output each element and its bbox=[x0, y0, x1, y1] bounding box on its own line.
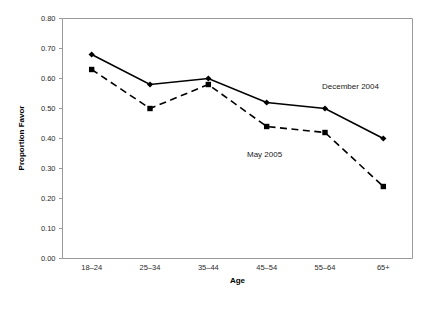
y-tick-label: 0.50 bbox=[41, 104, 56, 113]
data-point-marker bbox=[206, 82, 211, 87]
y-tick-label: 0.40 bbox=[41, 134, 56, 143]
x-axis-title: Age bbox=[230, 276, 246, 285]
y-tick-label: 0.00 bbox=[41, 254, 56, 263]
axis-lines bbox=[63, 19, 413, 259]
x-tick-label: 45–54 bbox=[256, 263, 277, 272]
x-tick-label: 65+ bbox=[377, 263, 390, 272]
x-tick-label: 18–24 bbox=[81, 263, 102, 272]
data-point-marker bbox=[264, 99, 270, 105]
series-label-1: May 2005 bbox=[247, 150, 283, 159]
data-point-marker bbox=[89, 67, 94, 72]
x-tick-label: 25–34 bbox=[140, 263, 161, 272]
y-tick-labels: 0.000.100.200.300.400.500.600.700.80 bbox=[41, 14, 56, 263]
y-tick-label: 0.60 bbox=[41, 74, 56, 83]
line-chart: 0.000.100.200.300.400.500.600.700.80 18–… bbox=[0, 0, 431, 309]
data-point-marker bbox=[205, 75, 211, 81]
data-point-marker bbox=[322, 130, 327, 135]
data-point-marker bbox=[147, 81, 153, 87]
data-point-marker bbox=[381, 184, 386, 189]
x-tick-label: 35–44 bbox=[198, 263, 219, 272]
y-tick-label: 0.20 bbox=[41, 194, 56, 203]
data-point-marker bbox=[89, 51, 95, 57]
y-tick-label: 0.10 bbox=[41, 224, 56, 233]
plot-axes bbox=[63, 19, 413, 259]
x-tick-label: 55–64 bbox=[315, 263, 336, 272]
series-markers bbox=[89, 51, 387, 189]
data-point-marker bbox=[322, 105, 328, 111]
data-point-marker bbox=[380, 135, 386, 141]
x-tick-labels: 18–2425–3435–4445–5455–6465+ bbox=[81, 263, 390, 272]
data-point-marker bbox=[264, 124, 269, 129]
y-tick-marks bbox=[59, 19, 63, 259]
y-tick-label: 0.70 bbox=[41, 44, 56, 53]
data-point-marker bbox=[147, 106, 152, 111]
y-axis-title: Proportion Favor bbox=[17, 106, 26, 171]
y-tick-label: 0.80 bbox=[41, 14, 56, 23]
y-tick-label: 0.30 bbox=[41, 164, 56, 173]
series-label-0: December 2004 bbox=[322, 82, 379, 91]
series-annotations: December 2004May 2005 bbox=[247, 82, 379, 159]
series-lines bbox=[92, 55, 384, 187]
chart-container: 0.000.100.200.300.400.500.600.700.80 18–… bbox=[0, 0, 431, 309]
series-line-0 bbox=[92, 55, 384, 139]
